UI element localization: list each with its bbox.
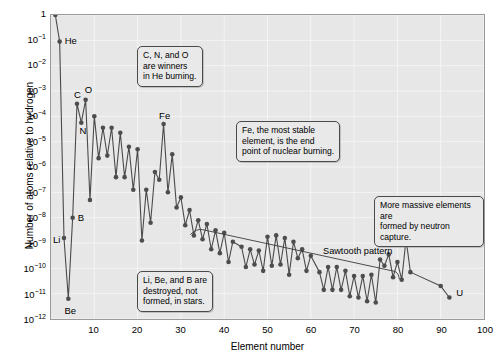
x-tick-label-100: 100 — [470, 325, 496, 335]
point-label-he: He — [65, 36, 77, 46]
annotation-sawtooth-pattern: Sawtooth pattern — [323, 246, 392, 256]
x-tick-label-30: 30 — [166, 325, 196, 335]
annotation-li-be-b-destroyed: Li, Be, and B are destroyed, not formed,… — [137, 271, 213, 312]
x-tick-label-60: 60 — [296, 325, 326, 335]
x-tick-label-20: 20 — [122, 325, 152, 335]
point-label-c: C — [74, 90, 81, 100]
y-tick-label-0: 1 — [41, 9, 46, 19]
y-tick-label-1: 10−1 — [27, 35, 46, 45]
y-tick-label-11: 10−11 — [24, 290, 46, 300]
x-tick-label-40: 40 — [209, 325, 239, 335]
x-tick-label-10: 10 — [79, 325, 109, 335]
x-tick-label-50: 50 — [253, 325, 283, 335]
x-tick-label-70: 70 — [340, 325, 370, 335]
y-tick-label-12: 10−12 — [24, 315, 46, 325]
x-axis-title: Element number — [50, 341, 485, 352]
plot-area: C, N, and O are winners in He burning. F… — [50, 14, 485, 320]
point-label-li: Li — [53, 235, 60, 245]
point-label-u: U — [456, 288, 463, 298]
annotation-fe-most-stable: Fe, the most stable element, is the end … — [236, 121, 340, 162]
point-label-o: O — [85, 85, 92, 95]
y-axis-title: Number of atoms relative to hydrogen — [24, 51, 35, 281]
point-label-fe: Fe — [159, 111, 170, 121]
y-axis-title-wrapper: Number of atoms relative to hydrogen — [0, 0, 14, 357]
point-label-be: Be — [64, 306, 76, 316]
annotation-cno-winners: C, N, and O are winners in He burning. — [137, 46, 203, 87]
point-label-b: B — [78, 213, 84, 223]
annotation-layer: C, N, and O are winners in He burning. F… — [51, 15, 484, 319]
abundance-chart-figure: 110−110−210−310−410−510−610−710−810−910−… — [0, 0, 496, 357]
point-label-n: N — [79, 126, 86, 136]
annotation-neutron-capture: More massive elements are formed by neut… — [374, 196, 484, 247]
x-tick-label-90: 90 — [427, 325, 457, 335]
x-tick-label-80: 80 — [383, 325, 413, 335]
